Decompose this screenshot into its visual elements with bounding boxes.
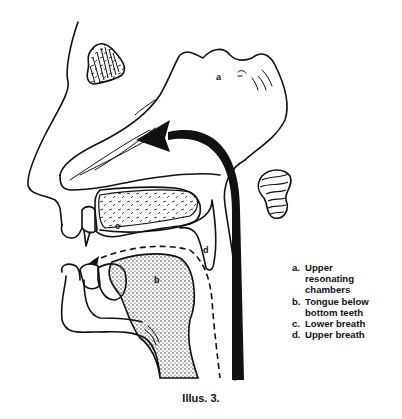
upper-breath-arrowhead (136, 120, 170, 152)
label-d: d (203, 245, 209, 255)
legend-item-d: d. Upper breath (292, 329, 369, 340)
legend-text: Lower breath (305, 318, 365, 329)
figure-caption: Illus. 3. (0, 392, 402, 404)
legend-text: Tongue below bottom teeth (305, 296, 369, 318)
sagittal-head-diagram: a b c d (0, 0, 402, 419)
tongue (109, 254, 198, 378)
legend-text: Upper resonating chambers (305, 262, 354, 296)
legend-key: a. (292, 262, 305, 296)
legend: a. Upper resonating chambers b. Tongue b… (292, 262, 369, 340)
legend-item-a: a. Upper resonating chambers (292, 262, 369, 296)
legend-text: Upper breath (305, 329, 365, 340)
legend-key: b. (292, 296, 305, 318)
label-b: b (154, 275, 160, 285)
lower-lip (62, 264, 80, 280)
lower-tooth (80, 264, 100, 289)
legend-item-b: b. Tongue below bottom teeth (292, 296, 369, 318)
legend-key: c. (292, 318, 305, 329)
label-c: c (115, 221, 120, 231)
face-profile (28, 22, 78, 225)
upper-lip (61, 225, 82, 238)
palate-bone (99, 190, 198, 228)
legend-item-c: c. Lower breath (292, 318, 369, 329)
legend-key: d. (292, 329, 305, 340)
label-a: a (216, 72, 222, 82)
